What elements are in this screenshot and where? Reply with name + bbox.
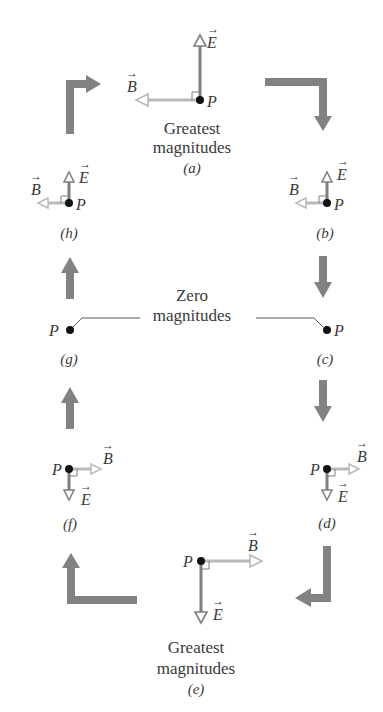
greatest-label-line1: Greatest (164, 119, 221, 138)
flow-arrow-c-to-d (314, 380, 332, 422)
e-vector-label: E (206, 34, 217, 51)
svg-text:→: → (337, 154, 349, 168)
panel-caption-a: (a) (183, 160, 201, 177)
wave-cycle-diagram: P E → B → Greatest magnitudes (a) P E → … (0, 0, 383, 712)
panel-caption-b: (b) (316, 225, 334, 242)
e-vector-label: E (212, 606, 223, 623)
e-vector-label: E (80, 491, 91, 508)
panel-caption-d: (d) (318, 515, 336, 532)
point-label: P (333, 322, 344, 339)
svg-text:→: → (212, 594, 224, 608)
panel-caption-h: (h) (60, 225, 78, 242)
flow-arrow-g-to-h (61, 257, 79, 299)
e-vector-label: E (336, 166, 347, 183)
greatest-label-line2: magnitudes (157, 659, 235, 678)
b-vector-label: B (289, 181, 299, 198)
greatest-label-line2: magnitudes (153, 138, 231, 157)
flow-arrow-e-to-f (62, 553, 137, 604)
panel-g: P (g) (48, 322, 78, 368)
svg-text:→: → (80, 479, 92, 493)
point-label: P (309, 461, 320, 478)
point-label: P (182, 553, 193, 570)
b-vector-label: B (357, 448, 367, 465)
b-vector-label: B (248, 537, 258, 554)
flow-arrow-a-to-b (265, 78, 332, 131)
panel-c: P (c) (317, 322, 344, 368)
point-label: P (75, 196, 86, 213)
panel-e: P B → E → Greatest magnitudes (e) (157, 525, 262, 698)
panel-f: P B → E → (f) (51, 438, 114, 533)
svg-text:→: → (102, 438, 114, 452)
flow-arrow-h-to-a (66, 75, 101, 134)
svg-text:→: → (247, 525, 259, 539)
b-vector-label: B (103, 450, 113, 467)
panel-a: P E → B → Greatest magnitudes (a) (126, 22, 231, 177)
b-vector-label: B (31, 181, 41, 198)
panel-caption-g: (g) (60, 351, 78, 368)
svg-text:→: → (126, 66, 138, 80)
b-vector-label: B (127, 78, 137, 95)
flow-arrow-d-to-e (295, 546, 331, 607)
e-vector-label: E (337, 488, 348, 505)
panel-b: P E → B → (b) (288, 154, 349, 242)
svg-text:→: → (207, 22, 219, 36)
flow-arrow-f-to-g (61, 387, 79, 429)
svg-text:→: → (79, 157, 91, 171)
zero-row: Zero magnitudes (73, 286, 323, 327)
svg-text:→: → (288, 169, 300, 183)
greatest-label-line1: Greatest (168, 638, 225, 657)
panel-caption-f: (f) (63, 516, 77, 533)
e-vector-label: E (78, 169, 89, 186)
svg-text:→: → (30, 169, 42, 183)
panel-d: P B → E → (d) (309, 436, 368, 532)
point-label: P (206, 93, 217, 110)
svg-text:→: → (337, 476, 349, 490)
point-label: P (51, 461, 62, 478)
point-label: P (48, 322, 59, 339)
zero-label-line2: magnitudes (153, 306, 231, 325)
panel-caption-c: (c) (317, 351, 334, 368)
zero-label-line1: Zero (176, 286, 208, 305)
panel-caption-e: (e) (188, 681, 205, 698)
flow-arrow-b-to-c (314, 256, 332, 298)
panel-h: P E → B → (h) (30, 157, 91, 242)
svg-text:→: → (356, 436, 368, 450)
point-label: P (333, 196, 344, 213)
